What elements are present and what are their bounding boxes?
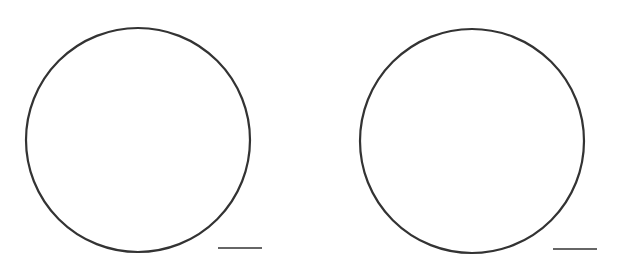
diagram-canvas [0, 0, 629, 279]
left-circle [26, 28, 250, 252]
right-circle [360, 29, 584, 253]
figure-left [26, 28, 262, 252]
diagram-svg [0, 0, 629, 279]
figure-right [360, 29, 597, 253]
